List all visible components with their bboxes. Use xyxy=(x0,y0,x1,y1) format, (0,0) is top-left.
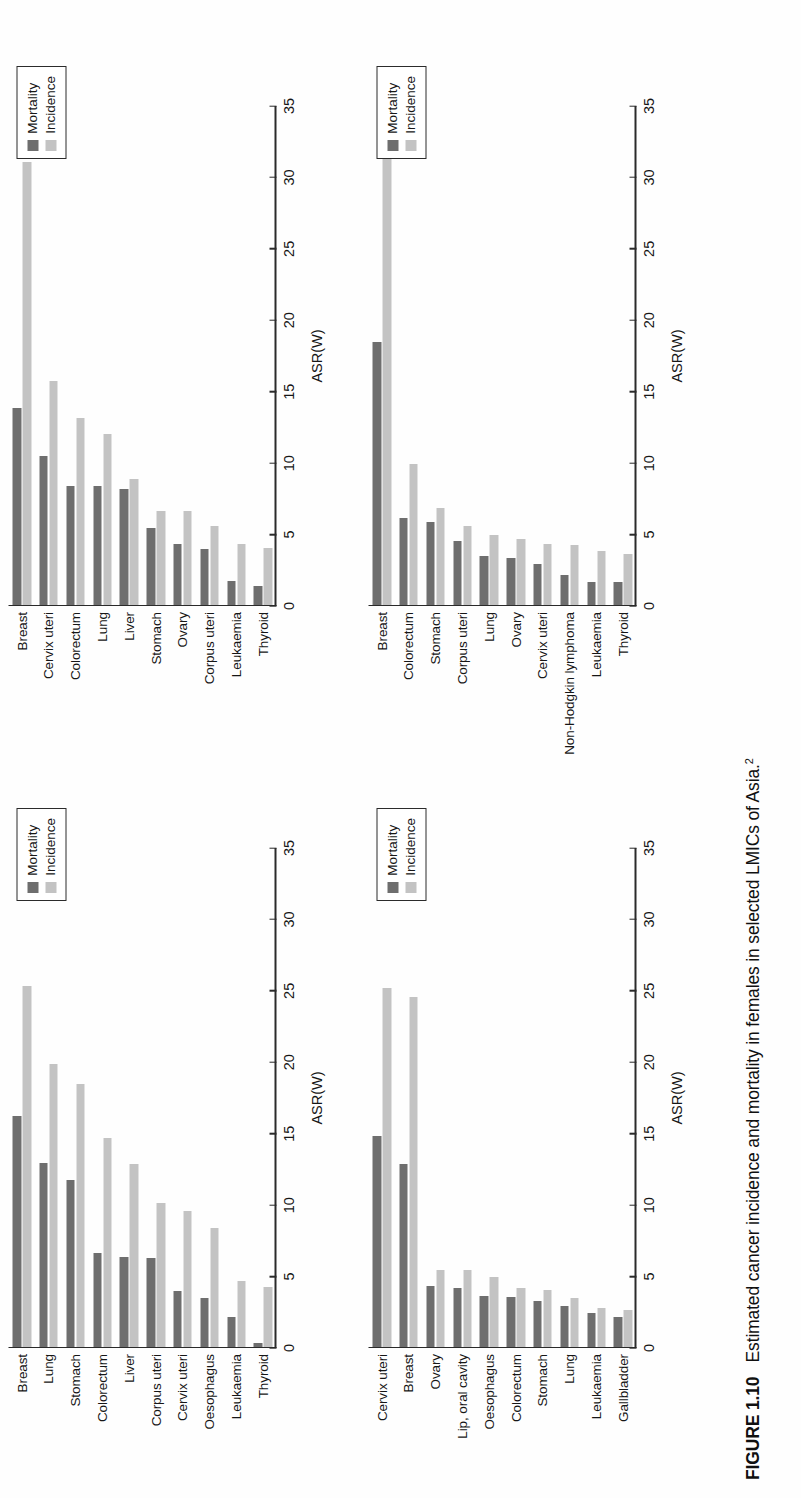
bar-group xyxy=(88,848,115,1348)
bar-mortality xyxy=(39,456,48,605)
axis-tick-label: 0 xyxy=(640,1344,656,1352)
category-label: Colorectum xyxy=(88,1348,115,1480)
bar-incidence xyxy=(156,1203,165,1347)
bar-incidence xyxy=(183,511,192,605)
category-label: Stomach xyxy=(62,1348,89,1480)
category-axis-labels: BreastColorectumStomachCorpus uteriLungO… xyxy=(368,606,636,738)
axis-tick-label: 5 xyxy=(280,531,296,539)
axis-tick xyxy=(629,177,636,178)
legend-swatch-incidence-icon xyxy=(45,140,56,151)
bar-group xyxy=(169,106,196,606)
category-label: Leukaemia xyxy=(222,1348,249,1480)
bar-incidence xyxy=(129,1164,138,1347)
bar-mortality xyxy=(479,556,488,605)
legend-swatch-mortality-icon xyxy=(27,882,38,893)
axis-tick-label: 35 xyxy=(640,840,656,856)
category-axis-labels: BreastLungStomachColorectumLiverCorpus u… xyxy=(8,1348,276,1480)
x-axis-tick-labels: 05101520253035 xyxy=(638,106,664,606)
x-axis-line xyxy=(274,848,276,1348)
category-label: Thyroid xyxy=(249,1348,276,1480)
axis-tick xyxy=(629,391,636,392)
bar-group xyxy=(395,106,422,606)
bar-incidence xyxy=(436,1270,445,1347)
bar-group xyxy=(448,848,475,1348)
legend-item-mortality: Mortality xyxy=(383,818,401,893)
bar-incidence xyxy=(263,1287,272,1347)
category-label: Lip, oral cavity xyxy=(448,1348,475,1480)
axis-tick xyxy=(629,1133,636,1134)
axis-tick-label: 10 xyxy=(280,455,296,471)
bar-group xyxy=(395,848,422,1348)
bar-group xyxy=(556,848,583,1348)
axis-tick xyxy=(269,534,276,535)
bar-group xyxy=(582,848,609,1348)
bar-group xyxy=(88,106,115,606)
axis-tick xyxy=(269,919,276,920)
chart-panel-bottom-left: Cervix uteriBreastOvaryLip, oral cavityO… xyxy=(368,780,723,1480)
bar-mortality xyxy=(560,1306,569,1347)
bar-mortality xyxy=(399,518,408,605)
legend-label-mortality: Mortality xyxy=(23,825,41,876)
bar-group xyxy=(169,848,196,1348)
bar-mortality xyxy=(399,1164,408,1347)
axis-tick xyxy=(629,847,636,848)
bar-incidence xyxy=(49,381,58,605)
axis-tick xyxy=(269,248,276,249)
bar-mortality xyxy=(12,408,21,605)
bar-incidence xyxy=(237,544,246,605)
bar-incidence xyxy=(409,997,418,1347)
bar-group xyxy=(196,106,223,606)
category-label: Stomach xyxy=(422,606,449,738)
bar-group xyxy=(422,848,449,1348)
category-label: Breast xyxy=(8,606,35,738)
category-label: Breast xyxy=(395,1348,422,1480)
bar-mortality xyxy=(560,575,569,605)
bar-incidence xyxy=(516,539,525,605)
bar-incidence xyxy=(436,508,445,605)
bar-chart: Cervix uteriBreastOvaryLip, oral cavityO… xyxy=(368,780,723,1480)
bar-mortality xyxy=(506,558,515,605)
axis-tick-label: 5 xyxy=(280,1273,296,1281)
bar-mortality xyxy=(119,489,128,605)
bar-incidence xyxy=(489,535,498,605)
bar-group xyxy=(609,106,636,606)
axis-tick-label: 35 xyxy=(640,98,656,114)
bar-mortality xyxy=(173,544,182,605)
legend-item-incidence: Incidence xyxy=(401,818,419,893)
bar-group xyxy=(249,848,276,1348)
bar-group xyxy=(448,106,475,606)
bar-group xyxy=(529,106,556,606)
bar-group xyxy=(196,848,223,1348)
legend-label-mortality: Mortality xyxy=(383,83,401,134)
category-label: Colorectum xyxy=(502,1348,529,1480)
bar-mortality xyxy=(426,522,435,605)
bar-group xyxy=(502,848,529,1348)
bar-group xyxy=(35,106,62,606)
category-label: Stomach xyxy=(142,606,169,738)
bar-group xyxy=(556,106,583,606)
axis-tick-label: 0 xyxy=(640,602,656,610)
axis-tick xyxy=(269,1276,276,1277)
chart-legend: Mortality Incidence xyxy=(376,66,426,159)
axis-tick-label: 25 xyxy=(640,241,656,257)
bar-mortality xyxy=(227,581,236,605)
bar-mortality xyxy=(173,1291,182,1347)
category-label: Oesophagus xyxy=(196,1348,223,1480)
bar-mortality xyxy=(93,486,102,605)
axis-tick-label: 5 xyxy=(640,1273,656,1281)
bar-incidence xyxy=(489,1277,498,1347)
bar-mortality xyxy=(12,1116,21,1347)
category-label: Colorectum xyxy=(62,606,89,738)
figure-caption-superscript: 2 xyxy=(742,758,754,764)
axis-tick-label: 0 xyxy=(280,602,296,610)
bar-incidence xyxy=(570,1298,579,1347)
axis-tick xyxy=(629,990,636,991)
bar-group xyxy=(62,106,89,606)
bar-mortality xyxy=(587,1313,596,1347)
category-label: Cervix uteri xyxy=(169,1348,196,1480)
bar-incidence xyxy=(516,1288,525,1347)
figure-caption-text: Estimated cancer incidence and mortality… xyxy=(743,764,763,1362)
bar-mortality xyxy=(479,1296,488,1347)
bar-incidence xyxy=(129,479,138,605)
axis-tick-label: 30 xyxy=(640,911,656,927)
